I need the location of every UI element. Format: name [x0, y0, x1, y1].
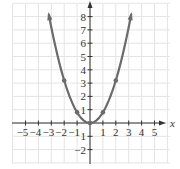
y-tick-label: 7 [81, 24, 87, 36]
x-tick-label: 5 [152, 126, 158, 138]
x-tick-label: 4 [139, 126, 145, 138]
x-tick-label: −1 [68, 126, 80, 138]
y-tick-label: 4 [81, 64, 87, 76]
x-tick-label: 2 [113, 126, 119, 138]
data-point [62, 78, 67, 83]
y-tick-label: 1 [81, 104, 87, 116]
data-point [114, 78, 119, 83]
x-tick-label: 3 [126, 126, 132, 138]
y-tick-label: 8 [81, 11, 87, 23]
y-tick-label: 5 [81, 51, 87, 63]
x-axis-label: x [169, 117, 175, 129]
parabola-chart: −5−4−3−2−11234512345678−21 x [0, 0, 180, 169]
x-tick-label: −3 [42, 126, 54, 138]
x-tick-label: −2 [55, 126, 67, 138]
axes [12, 1, 166, 164]
x-tick-label: −4 [30, 126, 42, 138]
svg-text:1: 1 [81, 130, 87, 142]
y-tick-label: 2 [81, 90, 87, 102]
x-tick-label: 1 [100, 126, 106, 138]
x-tick-label: −5 [17, 126, 29, 138]
y-tick-label: 6 [81, 37, 87, 49]
y-tick-label: −2 [74, 144, 86, 156]
y-tick-label: 3 [81, 77, 87, 89]
data-point [75, 110, 80, 115]
data-point [101, 110, 106, 115]
data-point [88, 121, 93, 126]
